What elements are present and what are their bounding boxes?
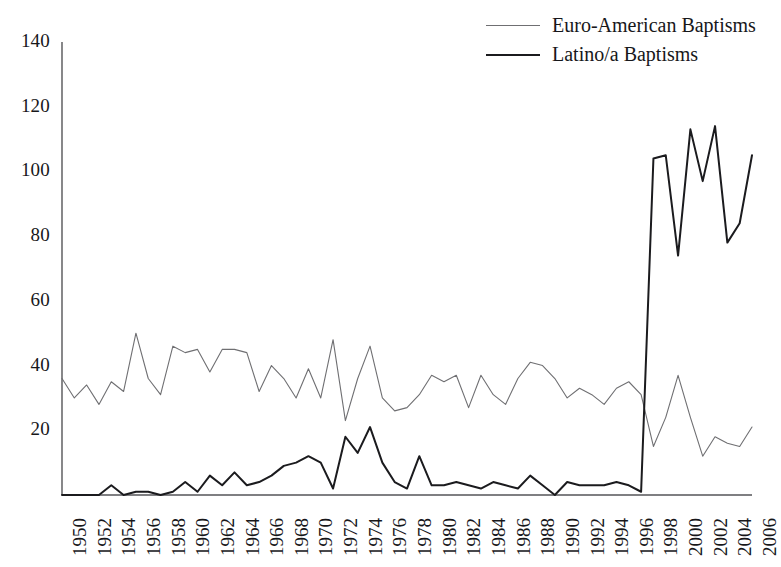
- x-tick-label: 1996: [636, 518, 658, 556]
- x-tick-label: 1990: [562, 518, 584, 556]
- y-tick-label: 140: [4, 30, 50, 52]
- x-tick-label: 1986: [513, 518, 535, 556]
- x-tick-label: 2002: [710, 518, 732, 556]
- x-tick-label: 1970: [315, 518, 337, 556]
- x-tick-label: 1976: [389, 518, 411, 556]
- x-tick-label: 1968: [291, 518, 313, 556]
- y-tick-label: 120: [4, 95, 50, 117]
- series-layer: [62, 126, 752, 495]
- y-tick-label: 100: [4, 159, 50, 181]
- y-tick-label: 20: [4, 418, 50, 440]
- x-tick-label: 2000: [685, 518, 707, 556]
- x-tick-label: 1974: [365, 518, 387, 556]
- x-tick-label: 1954: [118, 518, 140, 556]
- legend-line-icon-latino: [486, 48, 540, 60]
- x-tick-label: 1988: [537, 518, 559, 556]
- chart-legend: Euro-American Baptisms Latino/a Baptisms: [486, 10, 762, 68]
- y-tick-label: 40: [4, 354, 50, 376]
- x-tick-label: 1964: [242, 518, 264, 556]
- x-tick-label: 1978: [414, 518, 436, 556]
- legend-line-icon-euro-american: [486, 19, 540, 31]
- x-tick-label: 1958: [168, 518, 190, 556]
- x-tick-label: 1980: [439, 518, 461, 556]
- x-tick-label: 1956: [143, 518, 165, 556]
- x-tick-label: 1950: [69, 518, 91, 556]
- legend-item-latino: Latino/a Baptisms: [486, 39, 762, 68]
- x-tick-label: 2004: [734, 518, 756, 556]
- x-tick-label: 1960: [192, 518, 214, 556]
- x-tick-label: 1994: [611, 518, 633, 556]
- legend-label-latino: Latino/a Baptisms: [552, 43, 698, 65]
- series-line-euro-american: [62, 333, 752, 456]
- x-tick-label: 1966: [266, 518, 288, 556]
- x-tick-label: 2006: [759, 518, 781, 556]
- y-tick-label: 60: [4, 289, 50, 311]
- series-line-latino: [62, 126, 752, 495]
- x-tick-label: 1972: [340, 518, 362, 556]
- x-tick-label: 1962: [217, 518, 239, 556]
- x-tick-label: 1982: [463, 518, 485, 556]
- x-tick-label: 1984: [488, 518, 510, 556]
- x-tick-label: 1992: [587, 518, 609, 556]
- legend-label-euro-american: Euro-American Baptisms: [552, 14, 756, 36]
- legend-item-euro-american: Euro-American Baptisms: [486, 10, 762, 39]
- x-tick-label: 1998: [660, 518, 682, 556]
- x-tick-label: 1952: [94, 518, 116, 556]
- y-tick-label: 80: [4, 224, 50, 246]
